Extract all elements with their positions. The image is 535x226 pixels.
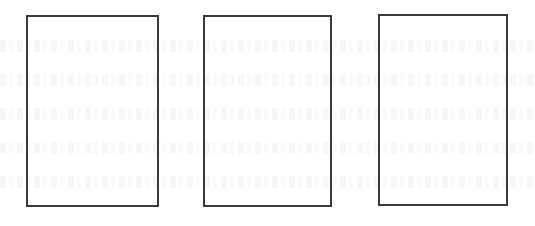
scanned-page: [0, 0, 535, 226]
empty-frame-1: [26, 15, 159, 207]
empty-frame-2: [203, 15, 332, 207]
empty-frame-3: [378, 14, 508, 206]
